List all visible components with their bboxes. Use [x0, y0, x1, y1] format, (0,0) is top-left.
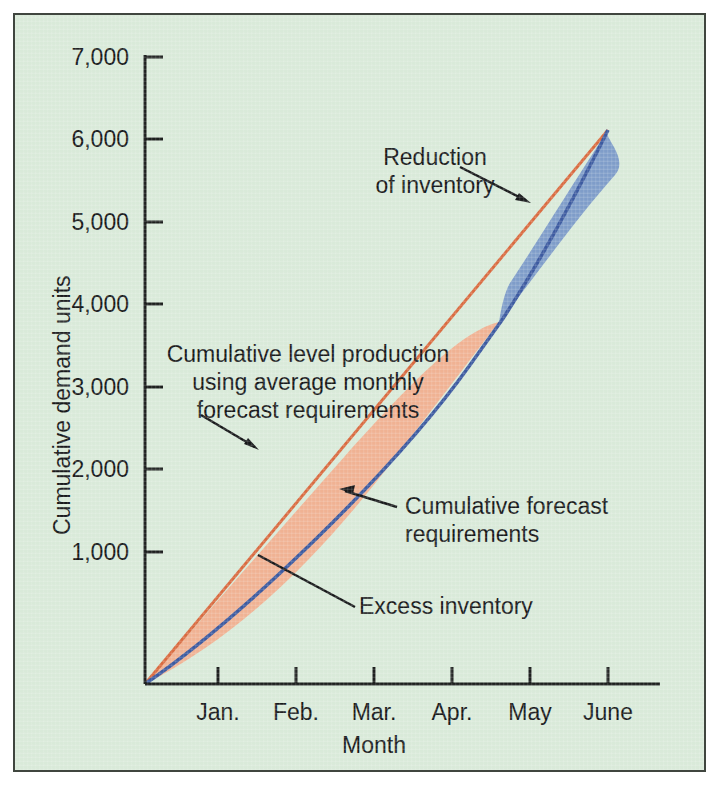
chart-frame: 7,000 6,000 5,000 4,000 3,000 2,000 1,00…: [13, 13, 706, 772]
y-tick-label-1000: 1,000: [17, 539, 129, 566]
x-axis-title: Month: [324, 732, 424, 759]
y-tick-label-7000: 7,000: [17, 44, 129, 71]
reduction-of-inventory-annotation: Reduction of inventory: [345, 143, 525, 199]
x-tick-label-june: June: [558, 699, 658, 726]
y-axis-title: Cumulative demand units: [49, 275, 76, 535]
y-tick-label-5000: 5,000: [17, 209, 129, 236]
cumulative-forecast-annotation: Cumulative forecast requirements: [405, 492, 645, 548]
y-axis-ticks: [145, 57, 163, 552]
y-tick-label-6000: 6,000: [17, 126, 129, 153]
level-production-annotation: Cumulative level production using averag…: [163, 340, 453, 424]
x-axis-ticks: [218, 667, 608, 684]
figure-root: 7,000 6,000 5,000 4,000 3,000 2,000 1,00…: [0, 0, 724, 788]
excess-inventory-annotation: Excess inventory: [359, 592, 599, 620]
